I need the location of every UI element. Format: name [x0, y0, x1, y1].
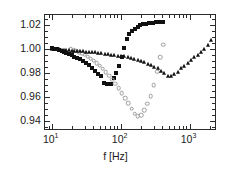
y-axis-tick-minor-right [212, 91, 215, 92]
x-axis-tick-minor-top [169, 15, 170, 18]
x-axis-tick-minor [105, 126, 106, 129]
y-axis-tick-minor-right [212, 109, 215, 110]
data-point-filled-squares [99, 74, 103, 78]
y-axis-tick-minor [45, 67, 48, 68]
x-axis-tick-minor [154, 126, 155, 129]
y-axis-tick-minor [45, 37, 48, 38]
data-point-open-circles [126, 101, 131, 106]
x-axis-tick-major-top [190, 15, 191, 20]
y-axis-tick-label: 0.94 [20, 114, 41, 126]
x-axis-tick-minor-top [117, 15, 118, 18]
x-axis-tick-minor-top [162, 15, 163, 18]
y-axis-tick-minor [45, 31, 48, 32]
x-axis-tick-minor-top [85, 15, 86, 18]
data-point-filled-squares [161, 20, 165, 24]
x-axis-tick-minor [49, 126, 50, 129]
x-axis-tick-minor [141, 126, 142, 129]
x-axis-tick-minor [162, 126, 163, 129]
y-axis-tick-minor-right [212, 61, 215, 62]
x-axis-tick-minor-top [154, 15, 155, 18]
data-point-open-circles [116, 86, 121, 91]
y-axis-tick-minor-right [212, 127, 215, 128]
chart-figure: 1.021.000.980.960.94 101102103 f [Hz] [0, 0, 231, 178]
y-axis-tick-major-right [210, 97, 215, 98]
y-axis-labels: 1.021.000.980.960.94 [0, 14, 41, 130]
data-point-filled-triangles [209, 38, 213, 42]
x-axis-tick-minor [186, 126, 187, 129]
y-axis-tick-major-right [210, 49, 215, 50]
x-axis-tick-label: 103 [181, 132, 197, 145]
x-axis-tick-minor [85, 126, 86, 129]
x-axis-tick-major-top [52, 15, 53, 20]
data-point-open-circles [148, 94, 153, 99]
y-axis-tick-minor-right [212, 67, 215, 68]
plot-area [44, 14, 216, 130]
x-axis-tick-minor-top [141, 15, 142, 18]
x-axis-tick-minor [100, 126, 101, 129]
y-axis-tick-minor [45, 55, 48, 56]
y-axis-tick-major [45, 25, 50, 26]
data-point-open-circles [142, 108, 147, 113]
x-axis-tick-minor [179, 126, 180, 129]
y-axis-tick-major-right [210, 73, 215, 74]
y-axis-tick-major-right [210, 25, 215, 26]
y-axis-tick-minor [45, 109, 48, 110]
y-axis-tick-major [45, 97, 50, 98]
x-axis-tick-minor [169, 126, 170, 129]
y-axis-tick-minor [45, 19, 48, 20]
x-axis-tick-minor-top [174, 15, 175, 18]
y-axis-tick-minor-right [212, 43, 215, 44]
x-axis-tick-minor-top [72, 15, 73, 18]
y-axis-tick-label: 0.98 [20, 66, 41, 78]
data-point-filled-triangles [206, 43, 210, 47]
x-axis-tick-minor [117, 126, 118, 129]
x-axis-tick-major [121, 124, 122, 129]
data-point-open-circles [129, 107, 134, 112]
y-axis-tick-label: 1.00 [20, 42, 41, 54]
y-axis-tick-major [45, 73, 50, 74]
data-point-open-circles [139, 113, 144, 118]
data-point-filled-triangles [202, 47, 206, 51]
x-axis-tick-minor-top [110, 15, 111, 18]
x-axis-tick-minor [114, 126, 115, 129]
y-axis-tick-minor-right [212, 79, 215, 80]
x-axis-tick-minor-top [210, 15, 211, 18]
x-axis-tick-minor-top [49, 15, 50, 18]
data-point-open-circles [145, 102, 150, 107]
data-point-open-circles [123, 96, 128, 101]
x-axis-tick-major-top [121, 15, 122, 20]
y-axis-tick-minor-right [212, 103, 215, 104]
data-point-open-circles [161, 42, 166, 47]
x-axis-tick-label: 102 [112, 132, 128, 145]
data-point-open-circles [152, 83, 157, 88]
x-axis-tick-label: 101 [43, 132, 59, 145]
y-axis-tick-minor-right [212, 115, 215, 116]
data-point-open-circles [158, 55, 163, 60]
y-axis-tick-minor [45, 91, 48, 92]
x-axis-tick-minor-top [186, 15, 187, 18]
y-axis-tick-minor-right [212, 85, 215, 86]
y-axis-tick-major-right [210, 121, 215, 122]
x-axis-tick-minor [210, 126, 211, 129]
y-axis-tick-minor-right [212, 19, 215, 20]
x-axis-tick-major [52, 124, 53, 129]
x-axis-tick-minor-top [183, 15, 184, 18]
x-axis-tick-minor-top [179, 15, 180, 18]
x-axis-tick-minor [93, 126, 94, 129]
y-axis-tick-minor [45, 85, 48, 86]
y-axis-tick-major [45, 121, 50, 122]
y-axis-tick-minor [45, 103, 48, 104]
data-point-filled-squares [122, 46, 126, 50]
x-axis-tick-minor [110, 126, 111, 129]
x-axis-title: f [Hz] [0, 150, 231, 162]
x-axis-tick-minor-top [100, 15, 101, 18]
data-point-filled-squares [114, 71, 118, 75]
y-axis-tick-minor [45, 61, 48, 62]
data-point-filled-squares [117, 64, 121, 68]
y-axis-tick-label: 1.02 [20, 18, 41, 30]
y-axis-tick-minor [45, 43, 48, 44]
data-point-open-circles [120, 91, 125, 96]
x-axis-tick-minor-top [93, 15, 94, 18]
y-axis-tick-label: 0.96 [20, 90, 41, 102]
y-axis-tick-minor [45, 115, 48, 116]
